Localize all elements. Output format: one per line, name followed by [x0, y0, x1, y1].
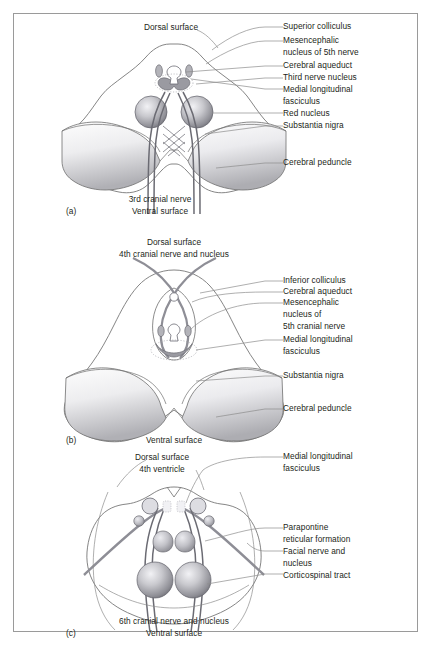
panel-a-third-cranial-nerve-label: 3rd cranial nerve: [129, 194, 192, 206]
panel-b-ventral-surface-label: Ventral surface: [146, 435, 202, 447]
panel-c-fourth-ventricle-label: 4th ventricle: [139, 464, 184, 476]
panel-b-label-mesencephalic-nucleus-line2: nucleus of: [283, 309, 321, 321]
panel-c-label-medial-longitudinal-fasciculus-line2: fasciculus: [283, 463, 320, 475]
panel-b-label-cerebral-peduncle: Cerebral peduncle: [283, 403, 352, 415]
panel-a-label-cerebral-aqueduct: Cerebral aqueduct: [283, 60, 352, 72]
panel-a-label-medial-longitudinal-fasciculus-line2: fasciculus: [283, 96, 320, 108]
panel-a-label-red-nucleus: Red nucleus: [283, 108, 330, 120]
panel-c-label-parapontine-line2: reticular formation: [283, 534, 350, 546]
panel-c-label-corticospinal-tract: Corticospinal tract: [283, 570, 350, 582]
panel-b-label-cerebral-aqueduct: Cerebral aqueduct: [283, 286, 352, 298]
panel-c-art: [84, 457, 283, 632]
panel-a-label-cerebral-peduncle: Cerebral peduncle: [283, 157, 352, 169]
panel-b-label-medial-longitudinal-fasciculus-line1: Medial longitudinal: [283, 334, 353, 346]
panel-b-label-inferior-colliculus: Inferior colliculus: [283, 275, 346, 287]
dorsal-surface-leader-a: [197, 30, 218, 48]
corticospinal-tract-left-c: [137, 562, 173, 598]
panel-b-fourth-cranial-nerve-label: 4th cranial nerve and nucleus: [119, 249, 229, 261]
panel-b-label-mesencephalic-nucleus-line3: 5th cranial nerve: [283, 321, 345, 333]
panel-b-caption: (b): [66, 435, 76, 445]
sixth-nerve-nucleus-right-c: [190, 498, 206, 514]
facial-genu-left-c: [134, 516, 144, 526]
panel-a-ventral-surface-label: Ventral surface: [132, 206, 188, 218]
cerebral-aqueduct-b: [170, 293, 178, 301]
panel-a-label-mesencephalic-nucleus-5th-nerve-line1: Mesencephalic: [283, 35, 339, 47]
panel-c-label-medial-longitudinal-fasciculus-line1: Medial longitudinal: [283, 451, 353, 463]
panel-c-dorsal-surface-label: Dorsal surface: [135, 452, 189, 464]
brainstem-artwork: [0, 0, 433, 659]
panel-c-sixth-cranial-nerve-label: 6th cranial nerve and nucleus: [119, 616, 229, 628]
fourth-ventricle-leader-c: [196, 470, 204, 490]
brainstem-cross-section-figure: Dorsal surface 3rd cranial nerve Ventral…: [0, 0, 433, 659]
panel-a-art: [62, 27, 286, 214]
mesencephalic-nucleus-right-a: [186, 65, 193, 77]
panel-c-label-facial-nerve-line1: Facial nerve and: [283, 546, 345, 558]
panel-a-label-superior-colliculus: Superior colliculus: [283, 21, 351, 33]
mesencephalic-nucleus-left-a: [156, 65, 163, 77]
panel-b-label-mesencephalic-nucleus-line1: Mesencephalic: [283, 297, 339, 309]
corticospinal-tract-right-c: [175, 562, 211, 598]
panel-a-label-third-nerve-nucleus: Third nerve nucleus: [283, 72, 357, 84]
mesencephalic-nucleus-right-b: [185, 325, 191, 336]
pons-outline-c: [87, 487, 261, 624]
facial-genu-right-c: [204, 516, 214, 526]
panel-a-label-medial-longitudinal-fasciculus-line1: Medial longitudinal: [283, 84, 353, 96]
panel-a-label-mesencephalic-nucleus-5th-nerve-line2: nucleus of 5th nerve: [283, 47, 359, 59]
panel-c-label-parapontine-line1: Parapontine: [283, 522, 328, 534]
panel-b-label-medial-longitudinal-fasciculus-line2: fasciculus: [283, 346, 320, 358]
parapontine-reticular-formation-left-c: [153, 531, 173, 552]
panel-b-dorsal-surface-label: Dorsal surface: [147, 237, 201, 249]
panel-c-label-facial-nerve-line2: nucleus: [283, 558, 312, 570]
panel-c-caption: (c): [66, 628, 76, 638]
panel-a-dorsal-surface-label: Dorsal surface: [144, 22, 198, 34]
mesencephalic-nucleus-left-b: [158, 325, 164, 336]
parapontine-reticular-formation-right-c: [175, 531, 195, 552]
panel-a-label-substantia-nigra: Substantia nigra: [283, 120, 344, 132]
panel-c-ventral-surface-label: Ventral surface: [146, 628, 202, 640]
panel-a-caption: (a): [66, 206, 76, 216]
panel-b-art: [64, 258, 284, 442]
panel-b-label-substantia-nigra: Substantia nigra: [283, 370, 344, 382]
sixth-nerve-nucleus-left-c: [142, 498, 158, 514]
